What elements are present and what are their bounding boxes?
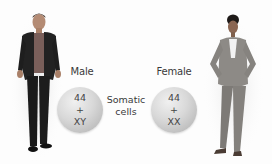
male-somatic-cell: 44 + XY xyxy=(57,87,103,133)
somatic-cells-label: Somatic cells xyxy=(106,94,146,118)
diagram-canvas: Male 44 + XY Somatic cells Female 44 + X… xyxy=(0,0,272,164)
male-person-figure xyxy=(10,8,65,164)
female-label: Female xyxy=(156,66,192,77)
male-plus-sign: + xyxy=(76,104,84,116)
male-autosome-count: 44 xyxy=(74,92,86,104)
male-label: Male xyxy=(70,66,94,77)
female-somatic-cell: 44 + XX xyxy=(151,87,197,133)
female-sex-chromosomes: XX xyxy=(167,116,180,128)
somatic-cells-line2: cells xyxy=(106,106,146,118)
male-sex-chromosomes: XY xyxy=(74,116,86,128)
somatic-cells-line1: Somatic xyxy=(106,94,146,106)
female-person-figure xyxy=(196,14,266,164)
female-plus-sign: + xyxy=(170,104,178,116)
female-autosome-count: 44 xyxy=(168,92,180,104)
